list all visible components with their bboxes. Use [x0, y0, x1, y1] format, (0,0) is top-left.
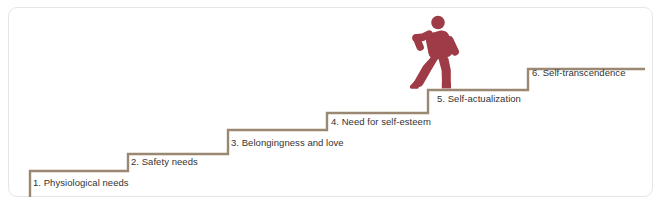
- step-label-4: 4. Need for self-esteem: [331, 116, 431, 128]
- walking-person-icon: [410, 16, 459, 89]
- step-label-3: 3. Belongingness and love: [231, 137, 344, 149]
- staircase-diagram: 1. Physiological needs 2. Safety needs 3…: [0, 0, 661, 207]
- screenshot-root: 1. Physiological needs 2. Safety needs 3…: [0, 0, 661, 207]
- person-front-foot: [442, 82, 451, 88]
- step-label-2: 2. Safety needs: [131, 156, 198, 168]
- staircase-graphic: [0, 0, 661, 207]
- step-label-5: 5. Self-actualization: [437, 93, 521, 105]
- person-head: [431, 16, 445, 30]
- step-label-1: 1. Physiological needs: [33, 177, 129, 189]
- step-label-6: 6. Self-transcendence: [532, 67, 625, 79]
